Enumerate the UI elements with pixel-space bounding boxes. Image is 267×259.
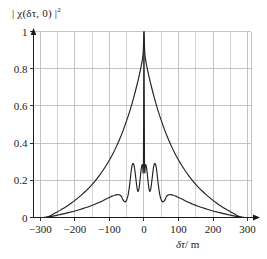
x-axis-label-symbol: δτ [176, 238, 185, 250]
plot-canvas: −300−200−1000100200300 00.20.40.60.81 [0, 0, 267, 259]
y-axis-label-main: | χ(δτ, 0) | [12, 7, 57, 19]
x-tick-labels: −300−200−1000100200300 [29, 223, 256, 235]
y-tick-labels: 00.20.40.60.81 [14, 26, 28, 224]
tick-marks [30, 32, 248, 222]
y-tick-label: 0 [22, 212, 28, 224]
x-tick-label: −100 [98, 223, 121, 235]
x-tick-label: 200 [205, 223, 222, 235]
y-tick-label: 1 [22, 26, 28, 38]
y-tick-label: 0.2 [14, 174, 28, 186]
x-tick-label: −200 [64, 223, 87, 235]
x-tick-label: −300 [29, 223, 52, 235]
ambiguity-function-figure: | χ(δτ, 0) |2 −300−200−1000100200300 00.… [0, 0, 267, 259]
y-tick-label: 0.6 [14, 100, 28, 112]
y-tick-label: 0.8 [14, 63, 28, 75]
y-axis-label-exponent: 2 [57, 6, 61, 14]
x-tick-label: 300 [239, 223, 256, 235]
x-axis-label: δτ/ m [176, 238, 199, 250]
x-tick-label: 0 [141, 223, 147, 235]
y-axis-label: | χ(δτ, 0) |2 [12, 6, 61, 19]
x-tick-label: 100 [170, 223, 187, 235]
x-axis-label-unit: / m [185, 238, 199, 250]
y-tick-label: 0.4 [14, 137, 28, 149]
